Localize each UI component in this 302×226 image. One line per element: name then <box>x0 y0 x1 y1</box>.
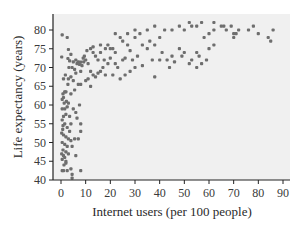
data-point <box>141 64 144 67</box>
data-point <box>183 28 186 31</box>
data-point <box>126 43 129 46</box>
data-point <box>99 43 102 46</box>
data-point <box>180 55 183 58</box>
data-point <box>121 40 124 43</box>
x-tick-label: 70 <box>228 186 240 200</box>
data-point <box>272 28 275 31</box>
data-point <box>230 25 233 28</box>
data-point <box>114 51 117 54</box>
data-point <box>133 28 136 31</box>
data-point <box>99 70 102 73</box>
data-point <box>195 51 198 54</box>
data-point <box>73 68 76 71</box>
data-point <box>94 55 97 58</box>
data-point <box>168 66 171 69</box>
data-point <box>74 154 77 157</box>
x-tick-label: 0 <box>58 186 64 200</box>
data-point <box>114 62 117 65</box>
data-point <box>74 111 77 114</box>
data-point <box>200 21 203 24</box>
x-tick-label: 80 <box>252 186 264 200</box>
data-point <box>104 47 107 50</box>
data-point <box>69 139 72 142</box>
data-point <box>69 122 72 125</box>
data-point <box>195 25 198 28</box>
y-axis-ticks: 404550556065707580 <box>34 23 53 187</box>
data-point <box>158 36 161 39</box>
data-point <box>173 60 176 63</box>
data-point <box>66 126 69 129</box>
data-point <box>124 57 127 60</box>
data-point <box>146 47 149 50</box>
data-point <box>85 49 88 52</box>
scatter-chart: 0102030405060708090 404550556065707580 I… <box>0 0 302 226</box>
data-point <box>78 103 81 106</box>
data-point <box>151 58 154 61</box>
y-tick-label: 50 <box>34 136 46 150</box>
data-point <box>72 79 75 82</box>
data-point <box>207 47 210 50</box>
data-point <box>65 100 68 103</box>
y-tick-label: 70 <box>34 61 46 75</box>
data-point <box>77 137 80 140</box>
y-tick-label: 55 <box>34 117 46 131</box>
data-point <box>190 58 193 61</box>
data-point <box>170 55 173 58</box>
data-point <box>141 43 144 46</box>
x-axis-ticks: 0102030405060708090 <box>58 180 289 200</box>
data-point <box>198 55 201 58</box>
y-tick-label: 65 <box>34 79 46 93</box>
data-point <box>92 51 95 54</box>
data-point <box>104 73 107 76</box>
x-tick-label: 90 <box>277 186 289 200</box>
data-point <box>69 92 72 95</box>
data-point <box>129 49 132 52</box>
data-point <box>200 62 203 65</box>
data-point <box>136 55 139 58</box>
data-point <box>71 145 74 148</box>
data-point <box>252 25 255 28</box>
data-point <box>64 113 67 116</box>
data-point <box>225 28 228 31</box>
data-point <box>207 32 210 35</box>
data-point <box>212 28 215 31</box>
data-point <box>89 70 92 73</box>
data-point <box>232 36 235 39</box>
data-point <box>80 64 83 67</box>
data-point <box>111 73 114 76</box>
data-point <box>71 177 74 180</box>
y-tick-label: 40 <box>34 173 46 187</box>
data-point <box>73 137 76 140</box>
data-point <box>106 62 109 65</box>
data-point <box>79 122 82 125</box>
data-point <box>64 90 67 93</box>
data-point <box>124 73 127 76</box>
data-point <box>60 55 63 58</box>
data-point <box>195 66 198 69</box>
data-point <box>89 85 92 88</box>
data-point <box>96 58 99 61</box>
x-tick-label: 10 <box>80 186 92 200</box>
plot-area <box>53 14 290 180</box>
x-tick-label: 30 <box>129 186 141 200</box>
data-point <box>87 77 90 80</box>
data-point <box>64 73 67 76</box>
data-point <box>61 33 64 36</box>
data-point <box>79 130 82 133</box>
data-point <box>183 51 186 54</box>
data-point <box>131 58 134 61</box>
data-point <box>61 118 64 121</box>
data-point <box>257 32 260 35</box>
data-point <box>75 62 78 65</box>
data-point <box>153 75 156 78</box>
data-point <box>79 83 82 86</box>
data-point <box>188 21 191 24</box>
data-point <box>61 158 64 161</box>
data-point <box>203 36 206 39</box>
data-point <box>119 36 122 39</box>
data-point <box>74 72 77 75</box>
data-point <box>68 59 71 62</box>
data-point <box>62 77 65 80</box>
data-point <box>69 167 72 170</box>
data-point <box>119 77 122 80</box>
